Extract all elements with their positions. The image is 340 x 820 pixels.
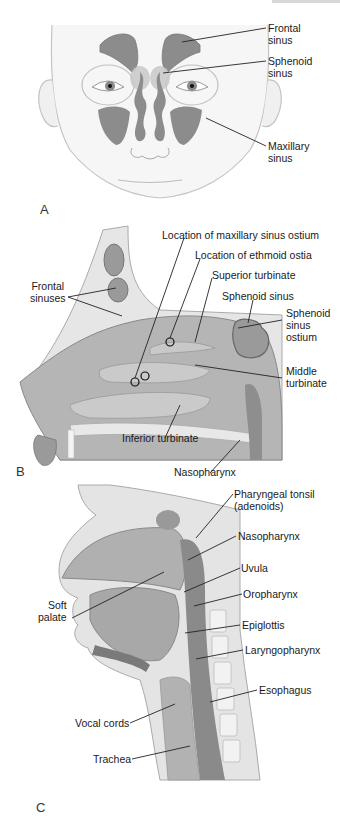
label-superior-turbinate: Superior turbinate	[212, 269, 295, 281]
label-line: sinus	[268, 152, 309, 164]
label-maxillary-sinus: Maxillary sinus	[268, 140, 309, 164]
label-oropharynx: Oropharynx	[243, 588, 298, 600]
label-line: Soft	[38, 599, 67, 611]
label-middle-turbinate: Middle turbinate	[286, 365, 327, 389]
label-line: Sphenoid	[268, 55, 312, 67]
label-uvula: Uvula	[241, 562, 268, 574]
panel-b-nasal-cavity: Location of maxillary sinus ostium Locat…	[0, 220, 340, 480]
label-esophagus: Esophagus	[259, 684, 312, 696]
label-nasopharynx: Nasopharynx	[238, 530, 300, 542]
label-ethmoid-ostia: Location of ethmoid ostia	[195, 249, 312, 261]
label-line: palate	[38, 611, 67, 623]
panel-c-pharynx: Pharyngeal tonsil (adenoids) Nasopharynx…	[0, 480, 340, 790]
label-line: Frontal	[268, 22, 301, 34]
label-laryngopharynx: Laryngopharynx	[245, 644, 320, 656]
label-line: (adenoids)	[234, 500, 315, 512]
label-line: sinus	[268, 34, 301, 46]
head-neck-sagittal-illustration	[0, 480, 340, 790]
label-sphenoid-sinus-ostium: Sphenoid sinus ostium	[286, 307, 330, 343]
label-line: sinus	[286, 319, 330, 331]
label-sphenoid-sinus: Sphenoid sinus	[268, 55, 312, 79]
label-line: Pharyngeal tonsil	[234, 488, 315, 500]
label-line: turbinate	[286, 377, 327, 389]
label-maxillary-sinus-ostium: Location of maxillary sinus ostium	[162, 229, 319, 241]
label-trachea: Trachea	[93, 753, 131, 765]
panel-a-frontal-view: Frontal sinus Sphenoid sinus Maxillary s…	[0, 0, 340, 200]
label-vocal-cords: Vocal cords	[75, 717, 129, 729]
panel-letter-b: B	[16, 464, 25, 479]
label-line: sinuses	[30, 292, 66, 304]
label-line: Middle	[286, 365, 327, 377]
label-line: Frontal	[30, 280, 66, 292]
panel-letter-c: C	[36, 800, 45, 815]
label-line: ostium	[286, 331, 330, 343]
label-soft-palate: Soft palate	[38, 599, 67, 623]
label-frontal-sinuses: Frontal sinuses	[30, 280, 66, 304]
label-line: Maxillary	[268, 140, 309, 152]
label-nasopharynx: Nasopharynx	[174, 466, 236, 478]
panel-letter-a: A	[40, 202, 49, 217]
label-line: Sphenoid	[286, 307, 330, 319]
label-epiglottis: Epiglottis	[242, 619, 285, 631]
label-pharyngeal-tonsil: Pharyngeal tonsil (adenoids)	[234, 488, 315, 512]
label-sphenoid-sinus: Sphenoid sinus	[222, 290, 294, 302]
label-frontal-sinus: Frontal sinus	[268, 22, 301, 46]
label-line: sinus	[268, 67, 312, 79]
label-inferior-turbinate: Inferior turbinate	[122, 432, 198, 444]
